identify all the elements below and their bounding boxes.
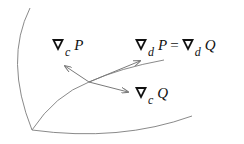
arrow-grad-d <box>89 61 140 82</box>
label-grad-c-P: cP <box>52 38 84 53</box>
nabla-icon <box>182 39 194 51</box>
subscript: d <box>195 45 201 59</box>
diagram-canvas: cP dP=dQ cQ <box>0 0 244 144</box>
arrow-grad-c-Q <box>89 82 128 92</box>
variable: P <box>74 37 83 53</box>
arrow-grad-c-P <box>65 66 89 82</box>
subscript: c <box>148 93 153 107</box>
variable: P <box>158 37 167 53</box>
bottom-boundary-curve <box>32 116 192 134</box>
equals-sign: = <box>170 37 178 53</box>
label-grad-c-Q: cQ <box>135 86 168 101</box>
subscript: c <box>65 45 70 59</box>
variable: Q <box>205 37 216 53</box>
nabla-icon <box>135 87 147 99</box>
nabla-icon <box>52 39 64 51</box>
nabla-icon <box>135 39 147 51</box>
subscript: d <box>148 45 154 59</box>
diagram-lines <box>0 0 244 144</box>
variable: Q <box>157 85 168 101</box>
left-boundary-curve <box>17 8 32 130</box>
label-grad-d-equality: dP=dQ <box>135 38 215 53</box>
